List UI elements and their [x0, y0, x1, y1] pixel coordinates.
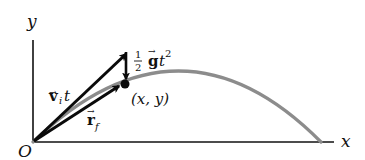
x-axis-label: x	[341, 131, 351, 151]
svg-text:2: 2	[135, 62, 141, 73]
gravity-term-label: 1 2 → g t 2	[134, 46, 171, 73]
final-position-label: → r f	[87, 106, 101, 132]
y-axis-label: y	[26, 11, 37, 31]
trajectory-curve	[33, 71, 321, 142]
svg-text:i: i	[59, 95, 62, 106]
svg-text:v: v	[48, 87, 59, 105]
initial-velocity-vector	[34, 54, 126, 141]
svg-text:1: 1	[135, 49, 141, 60]
projectile-diagram: y x O → v i t → r f 1 2 → g t 2 (x, y)	[0, 0, 365, 160]
svg-text:f: f	[94, 121, 101, 132]
position-point	[121, 80, 130, 89]
diagram-canvas: y x O → v i t → r f 1 2 → g t 2 (x, y)	[0, 0, 365, 160]
initial-velocity-label: → v i t	[48, 87, 71, 106]
svg-text:2: 2	[165, 48, 171, 59]
origin-label: O	[18, 141, 32, 160]
point-coordinates-label: (x, y)	[131, 90, 169, 108]
svg-text:g: g	[148, 52, 159, 70]
final-position-vector	[34, 86, 119, 141]
svg-text:t: t	[64, 87, 71, 105]
